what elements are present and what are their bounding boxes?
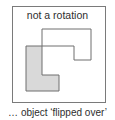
diagram-caption: … object ‘flipped over’ (0, 107, 115, 119)
shapes-canvas (0, 0, 115, 120)
filled-l-shape (26, 46, 59, 91)
outline-flipped-shape (42, 29, 91, 60)
